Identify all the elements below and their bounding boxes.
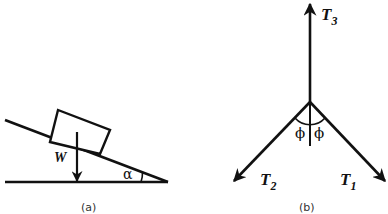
angle-arc — [141, 172, 143, 182]
t1-label: T1 — [340, 170, 356, 193]
angle-alpha-label: α — [123, 166, 133, 182]
phi-right-label: ϕ — [314, 124, 324, 142]
phi-left-label: ϕ — [295, 124, 305, 142]
weight-label: W — [54, 150, 68, 165]
caption-b: (b) — [299, 201, 315, 214]
diagram-canvas: W α (a) ϕ ϕ T3 T2 T1 (b) — [0, 0, 388, 214]
t3-label: T3 — [321, 5, 337, 28]
figure-a: W α (a) — [5, 110, 168, 214]
t2-label: T2 — [260, 170, 276, 193]
caption-a: (a) — [81, 201, 96, 214]
block — [50, 110, 110, 154]
figure-b: ϕ ϕ T3 T2 T1 (b) — [234, 4, 385, 214]
